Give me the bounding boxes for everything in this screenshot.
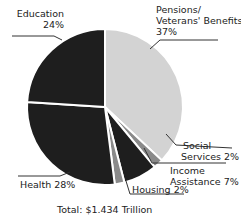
social-services-label: Social bbox=[183, 140, 211, 151]
education-label: Education 24% bbox=[16, 8, 64, 30]
total-label: Total: $1.434 Trillion bbox=[57, 204, 152, 215]
education-leader bbox=[12, 36, 62, 40]
pensions-leader bbox=[150, 40, 218, 49]
pie-slice-health bbox=[27, 102, 115, 185]
social-services-pct: Services 2% bbox=[181, 151, 239, 162]
housing-label: Housing 2% bbox=[132, 184, 189, 195]
health-label: Health 28% bbox=[20, 179, 75, 190]
pensions-label: Pensions/ Veterans' Benefits 37% bbox=[156, 4, 241, 37]
pie-slice-education bbox=[27, 29, 105, 107]
